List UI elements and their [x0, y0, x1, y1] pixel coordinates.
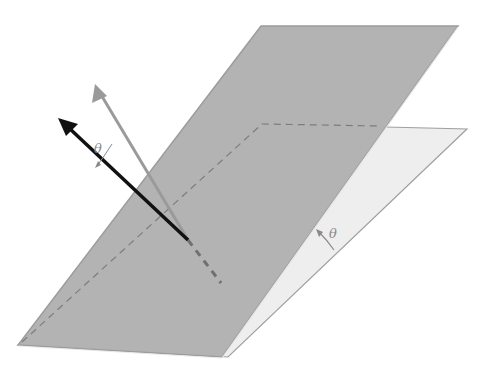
diagram-canvas: θ θ	[0, 0, 483, 365]
plane-angle-label: θ	[329, 226, 337, 241]
vector-angle-label: θ	[94, 141, 102, 156]
